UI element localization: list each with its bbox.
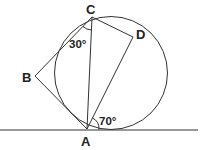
point-label-b: B [22, 70, 31, 85]
geometry-diagram: C D B A 30° 70° [0, 0, 209, 150]
angle-arc-c [83, 27, 91, 31]
segment-ba [35, 76, 87, 129]
angle-label-30: 30° [69, 38, 87, 50]
point-label-c: C [86, 2, 96, 17]
angle-label-70: 70° [99, 115, 117, 127]
segment-ca [87, 17, 92, 129]
point-label-d: D [136, 27, 145, 42]
point-label-a: A [81, 134, 91, 149]
segment-cd [92, 17, 133, 37]
